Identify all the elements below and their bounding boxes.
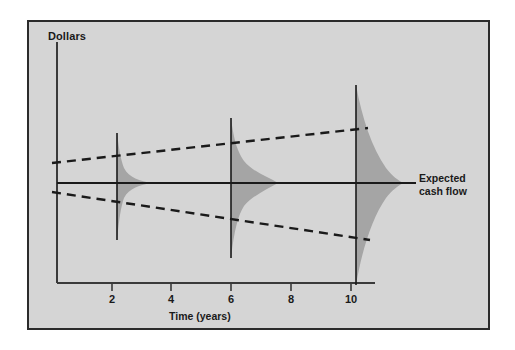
x-tick-label-8: 8 [279, 293, 303, 305]
dispersion-bounds [52, 128, 370, 240]
distribution-year-2-shape [117, 133, 152, 240]
x-axis-label: Time (years) [169, 310, 231, 322]
x-tick-label-2: 2 [100, 293, 124, 305]
distribution-year-10-shape [356, 85, 403, 285]
x-tick-label-6: 6 [219, 293, 243, 305]
expected-cash-flow-annotation-line1: Expected [419, 172, 467, 185]
expected-cash-flow-annotation-line2: cash flow [419, 185, 467, 198]
y-axis-label: Dollars [48, 30, 86, 42]
distribution-year-6-shape [231, 118, 278, 258]
x-axis-ticks [112, 283, 351, 291]
lower-dispersion-line [52, 192, 370, 240]
x-tick-label-4: 4 [159, 293, 183, 305]
figure-canvas: Dollars Time (years) 2 4 6 8 10 Expected… [0, 0, 515, 350]
upper-dispersion-line [52, 128, 368, 163]
axis-lines [57, 42, 375, 283]
x-tick-label-10: 10 [339, 293, 363, 305]
expected-cash-flow-annotation: Expected cash flow [419, 172, 467, 197]
distribution-shapes [117, 85, 403, 285]
